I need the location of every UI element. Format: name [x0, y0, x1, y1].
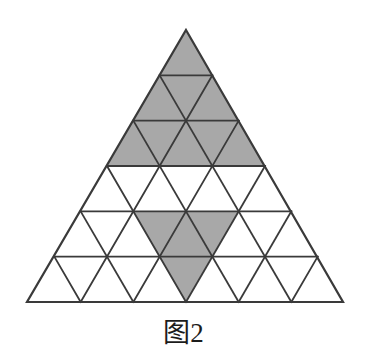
figure-container: 图2 [0, 0, 367, 364]
triangular-grid-figure [0, 0, 367, 364]
figure-caption: 图2 [0, 316, 367, 350]
shaded-triangle-cell [160, 30, 213, 75]
grid-line-diagonal-left [291, 257, 317, 302]
shaded-triangle-cell [160, 257, 213, 302]
grid-line-diagonal-right [54, 257, 80, 302]
